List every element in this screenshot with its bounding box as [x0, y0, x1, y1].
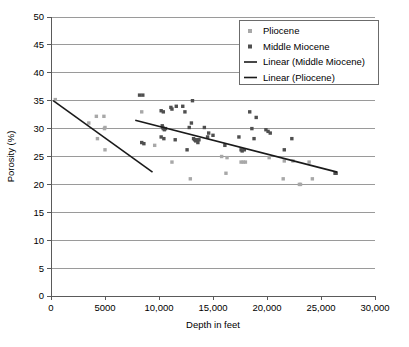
y-tick-label: 15: [33, 207, 44, 218]
data-point-middle-miocene: [175, 105, 178, 108]
data-point-pliocene: [299, 183, 302, 186]
data-point-pliocene: [170, 160, 173, 163]
data-point-middle-miocene: [170, 107, 173, 110]
data-point-middle-miocene: [162, 110, 165, 113]
x-tick-label: 15,000: [198, 302, 227, 313]
data-point-middle-miocene: [211, 134, 214, 137]
x-tick-label: 30,000: [360, 302, 389, 313]
legend-marker-middle-miocene: [248, 45, 252, 49]
legend-label: Middle Miocene: [263, 41, 330, 52]
y-tick-label: 5: [39, 263, 44, 274]
data-point-pliocene: [103, 148, 106, 151]
chart-container: 05101520253035404550 0500010,00015,00020…: [0, 0, 409, 347]
data-point-pliocene: [87, 121, 90, 124]
data-point-middle-miocene: [283, 148, 286, 151]
y-tick-label: 25: [33, 151, 44, 162]
data-point-pliocene: [283, 159, 286, 162]
y-tick-label: 40: [33, 67, 44, 78]
x-tick-labels: 0500010,00015,00020,00025,00030,000: [48, 302, 389, 313]
data-point-middle-miocene: [237, 135, 240, 138]
data-point-middle-miocene: [141, 93, 144, 96]
data-point-pliocene: [307, 160, 310, 163]
legend-label: Linear (Pliocene): [263, 72, 335, 83]
data-point-pliocene: [102, 115, 105, 118]
data-point-middle-miocene: [190, 121, 193, 124]
data-point-middle-miocene: [188, 126, 191, 129]
data-point-pliocene: [140, 110, 143, 113]
data-point-middle-miocene: [207, 131, 210, 134]
data-point-pliocene: [96, 137, 99, 140]
data-point-middle-miocene: [203, 126, 206, 129]
data-point-pliocene: [103, 126, 106, 129]
y-axis-title: Porosity (%): [5, 131, 16, 183]
data-point-middle-miocene: [181, 105, 184, 108]
legend-label: Pliocene: [263, 25, 299, 36]
y-tick-label: 10: [33, 235, 44, 246]
trendline-pliocene: [53, 101, 152, 172]
data-point-pliocene: [153, 144, 156, 147]
data-point-middle-miocene: [142, 142, 145, 145]
data-point-middle-miocene: [185, 148, 188, 151]
data-point-pliocene: [189, 177, 192, 180]
y-tick-label: 50: [33, 11, 44, 22]
x-tick-label: 5000: [94, 302, 115, 313]
legend-marker-pliocene: [248, 29, 252, 33]
data-point-middle-miocene: [250, 127, 253, 130]
x-tick-label: 25,000: [306, 302, 335, 313]
data-point-pliocene: [311, 177, 314, 180]
data-point-pliocene: [95, 115, 98, 118]
data-point-middle-miocene: [248, 110, 251, 113]
data-point-middle-miocene: [138, 93, 141, 96]
data-point-pliocene: [244, 160, 247, 163]
legend-label: Linear (Middle Miocene): [263, 56, 365, 67]
trend-lines: [53, 101, 337, 172]
y-tick-labels: 05101520253035404550: [33, 11, 44, 301]
trendline-middle-miocene: [135, 120, 337, 172]
data-point-pliocene: [224, 172, 227, 175]
data-points: [54, 93, 338, 186]
data-point-middle-miocene: [174, 138, 177, 141]
data-point-middle-miocene: [162, 137, 165, 140]
x-axis-title: Depth in feet: [186, 319, 240, 330]
data-point-middle-miocene: [183, 110, 186, 113]
y-tick-label: 45: [33, 39, 44, 50]
data-point-middle-miocene: [269, 131, 272, 134]
data-point-middle-miocene: [290, 137, 293, 140]
y-tick-label: 20: [33, 179, 44, 190]
data-point-pliocene: [225, 156, 228, 159]
data-point-pliocene: [220, 155, 223, 158]
data-point-middle-miocene: [191, 99, 194, 102]
x-tick-label: 20,000: [252, 302, 281, 313]
y-tick-label: 35: [33, 95, 44, 106]
scatter-chart: 05101520253035404550 0500010,00015,00020…: [0, 0, 409, 347]
data-point-middle-miocene: [252, 137, 255, 140]
data-point-middle-miocene: [255, 116, 258, 119]
chart-legend: PlioceneMiddle MioceneLinear (Middle Mio…: [239, 20, 378, 84]
data-point-pliocene: [267, 156, 270, 159]
x-tick-label: 0: [48, 302, 53, 313]
data-point-pliocene: [282, 177, 285, 180]
data-point-middle-miocene: [197, 138, 200, 141]
y-tick-label: 30: [33, 123, 44, 134]
x-tick-label: 10,000: [144, 302, 173, 313]
y-tick-label: 0: [39, 290, 44, 301]
